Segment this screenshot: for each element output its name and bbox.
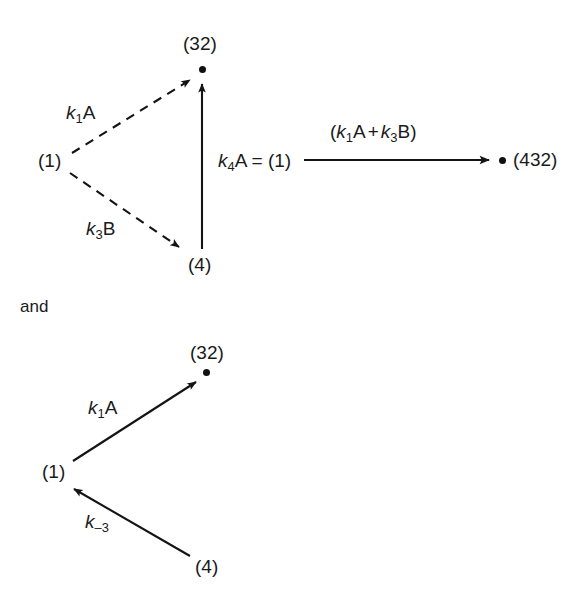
rate-subscript-1: 1 [98, 406, 105, 421]
rate-subscript-minus-3: –3 [95, 520, 109, 535]
rate-label-sum-top: (k1A+k3B) [330, 122, 417, 145]
rate-subscript-1: 1 [346, 130, 353, 145]
diagram-canvas [0, 0, 588, 599]
rate-species-A: A [105, 397, 118, 418]
node-label-32-bottom: (32) [190, 343, 224, 362]
rate-species-A: A [353, 121, 366, 142]
rate-symbol-k: k [336, 121, 346, 142]
node-label-32-top: (32) [183, 34, 217, 53]
node-label-1-bottom: (1) [42, 462, 65, 481]
rate-species-B: B [398, 121, 411, 142]
rate-label-k1A-top: k1A [66, 103, 95, 126]
rate-subscript-3: 3 [390, 130, 397, 145]
rate-subscript-1: 1 [76, 111, 83, 126]
rate-expression-tail: A = (1) [235, 150, 292, 171]
rate-symbol-k: k [218, 150, 228, 171]
rate-subscript-4: 4 [228, 159, 235, 174]
edge-k1A-solid [73, 382, 196, 461]
rate-symbol-k: k [85, 511, 95, 532]
node-dot-32-top [199, 66, 206, 73]
conjunction-and: and [20, 298, 48, 315]
paren-close: ) [410, 121, 416, 142]
node-dot-432-top [499, 157, 506, 164]
rate-label-k1A-bottom: k1A [88, 398, 117, 421]
rate-subscript-3: 3 [96, 227, 103, 242]
rate-symbol-k: k [381, 121, 391, 142]
rate-label-k3B-top: k3B [86, 219, 115, 242]
rate-species-B: B [103, 218, 116, 239]
node-label-432-top: (432) [513, 150, 557, 169]
node-label-4-top: (4) [188, 255, 211, 274]
plus-sign: + [366, 121, 381, 142]
rate-symbol-k: k [66, 102, 76, 123]
rate-symbol-k: k [88, 397, 98, 418]
rate-symbol-k: k [86, 218, 96, 239]
rate-label-k4A-top: k4A = (1) [218, 151, 291, 174]
node-dot-32-bottom [203, 369, 210, 376]
rate-label-kminus3-bottom: k–3 [85, 512, 109, 535]
rate-species-A: A [83, 102, 96, 123]
node-label-4-bottom: (4) [195, 557, 218, 576]
node-label-1-top: (1) [38, 151, 61, 170]
